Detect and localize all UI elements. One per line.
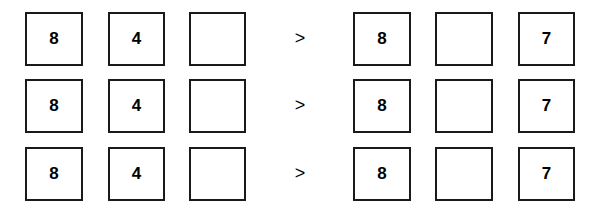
right-digit-box[interactable]: 8	[353, 147, 411, 201]
right-digit-box[interactable]: 7	[518, 12, 575, 66]
right-digit-box[interactable]	[435, 147, 493, 201]
left-digit-box[interactable]	[189, 79, 246, 133]
greater-than-symbol: >	[293, 95, 307, 116]
right-digit-box[interactable]: 8	[353, 79, 411, 133]
right-digit-box[interactable]: 8	[353, 12, 411, 66]
right-digit-box[interactable]: 7	[518, 79, 575, 133]
greater-than-symbol: >	[293, 28, 307, 49]
left-digit-box[interactable]: 4	[108, 147, 165, 201]
left-digit-box[interactable]	[189, 147, 246, 201]
greater-than-symbol: >	[293, 163, 307, 184]
right-digit-box[interactable]: 7	[518, 147, 575, 201]
left-digit-box[interactable]: 4	[108, 79, 165, 133]
left-digit-box[interactable]: 4	[108, 12, 165, 66]
right-digit-box[interactable]	[435, 12, 493, 66]
right-digit-box[interactable]	[435, 79, 493, 133]
left-digit-box[interactable]	[189, 12, 246, 66]
left-digit-box[interactable]: 8	[25, 12, 83, 66]
left-digit-box[interactable]: 8	[25, 147, 83, 201]
left-digit-box[interactable]: 8	[25, 79, 83, 133]
